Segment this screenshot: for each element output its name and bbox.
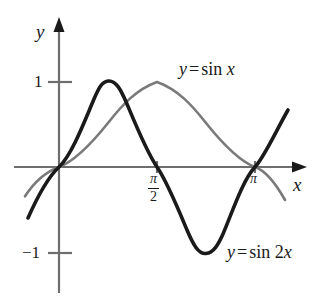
fraction-denominator: 2 <box>148 190 159 205</box>
sin2x-label-arg: x <box>284 242 292 262</box>
x-axis-label: x <box>293 175 301 194</box>
fraction-pi-over-two: π 2 <box>148 172 159 204</box>
y-axis-label: y <box>36 22 44 41</box>
x-tick-label-pi: π <box>250 172 257 186</box>
x-axis-arrowhead-icon <box>292 162 307 173</box>
figure-container: y x 1 −1 π 2 π y=sin x y=sin 2x <box>0 0 330 300</box>
y-tick-label-neg-one: −1 <box>22 244 40 261</box>
sinx-label-y: y <box>179 59 187 79</box>
sin2x-label-func: sin <box>249 242 270 262</box>
sinx-label-arg: x <box>227 59 235 79</box>
sinx-label-func: sin <box>201 59 222 79</box>
sin2x-label-coefficient: 2 <box>275 242 284 262</box>
fraction-numerator: π <box>148 172 159 187</box>
sin2x-label-y: y <box>227 242 235 262</box>
sinx-label-equals: = <box>187 59 201 79</box>
curve-label-sin-x: y=sin x <box>179 60 235 78</box>
y-axis-arrowhead-icon <box>54 17 65 32</box>
y-axis <box>54 17 65 293</box>
curve-label-sin-2x: y=sin 2x <box>227 243 292 261</box>
x-tick-label-pi-half: π 2 <box>148 172 159 204</box>
sin2x-label-equals: = <box>235 242 249 262</box>
y-tick-label-one: 1 <box>34 73 43 90</box>
